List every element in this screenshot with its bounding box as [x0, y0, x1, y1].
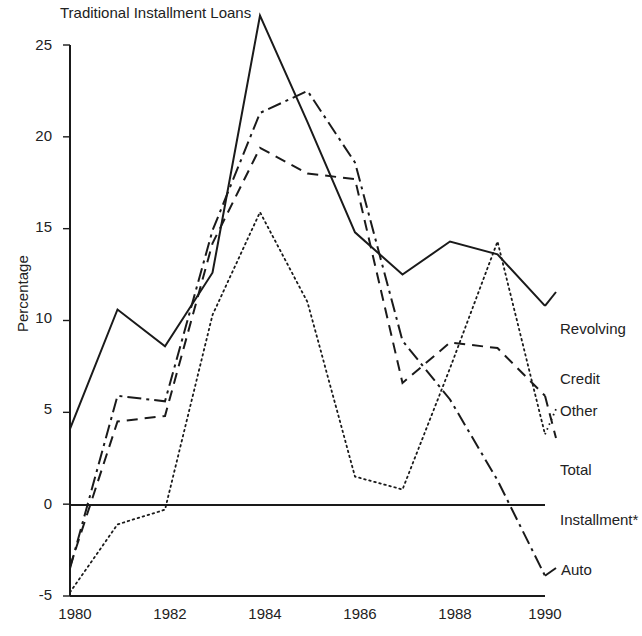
x-tick-label-1984: 1984 [235, 605, 295, 622]
series-line-total-installment [70, 148, 545, 567]
series-line-other [70, 212, 545, 592]
line-chart: Traditional Installment Loans Percentage… [0, 0, 642, 636]
y-axis-ticks [63, 45, 70, 596]
y-tick-label-minus5: -5 [18, 586, 52, 603]
series-label-line-1: Revolving [560, 321, 626, 338]
y-tick-label-10: 10 [18, 309, 52, 326]
x-tick-label-1980: 1980 [45, 605, 105, 622]
leader-line [545, 568, 556, 576]
label-leader-lines [545, 292, 556, 576]
x-tick-label-1990: 1990 [515, 605, 575, 622]
x-tick-label-1986: 1986 [330, 605, 390, 622]
leader-line [545, 396, 556, 438]
leader-line [545, 409, 556, 434]
axes-group [63, 45, 545, 596]
series-line-revolving-credit [70, 16, 545, 429]
x-tick-label-1982: 1982 [140, 605, 200, 622]
leader-line [545, 292, 556, 306]
y-tick-label-25: 25 [18, 36, 52, 53]
x-tick-label-1988: 1988 [425, 605, 485, 622]
y-tick-label-15: 15 [18, 218, 52, 235]
series-label-line-2: Installment* [560, 512, 638, 529]
series-label-auto: Auto [561, 562, 592, 579]
y-tick-label-0: 0 [18, 495, 52, 512]
series-label-other: Other [560, 403, 598, 420]
chart-title: Traditional Installment Loans [60, 4, 251, 21]
series-label-line-2: Credit [560, 371, 626, 388]
series-label-total-installment: Total Installment* [560, 428, 638, 562]
y-tick-label-5: 5 [18, 400, 52, 417]
y-tick-label-20: 20 [18, 127, 52, 144]
series-line-auto [70, 91, 545, 576]
plot-area [0, 0, 642, 636]
series-label-line-1: Total [560, 462, 638, 479]
